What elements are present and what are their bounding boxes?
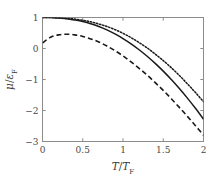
y-tick-label: 1: [33, 13, 39, 23]
x-tick-label: 1.5: [156, 145, 171, 155]
y-tick-label: −3: [25, 137, 39, 147]
x-tick-label: 0.5: [76, 145, 91, 155]
y-tick-label: −2: [25, 106, 38, 116]
x-tick-label: 0: [40, 145, 46, 155]
y-tick-label: −1: [25, 75, 38, 85]
chart-figure: 00.511.52 10−1−2−3 T/TF μ/εF: [0, 0, 220, 180]
y-tick-label: 0: [33, 44, 39, 54]
chemical-potential-plot: 00.511.52 10−1−2−3 T/TF μ/εF: [0, 0, 220, 180]
x-tick-label: 1: [120, 145, 126, 155]
x-tick-label: 2: [201, 145, 207, 155]
